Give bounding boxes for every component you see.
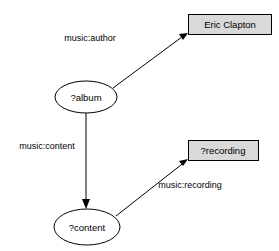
edge-music-content-arrowhead (82, 199, 90, 209)
node-eric-clapton[interactable]: Eric Clapton (189, 15, 272, 35)
edge-music-recording: music:recording (116, 159, 222, 216)
edge-label-music-content: music:content (19, 141, 75, 151)
rdf-graph: music:author music:content music:recordi… (0, 0, 279, 251)
diagram-canvas: music:author music:content music:recordi… (0, 0, 279, 251)
node-album-label: ?album (70, 92, 101, 103)
node-recording[interactable]: ?recording (189, 141, 259, 161)
node-eric-clapton-label: Eric Clapton (204, 19, 256, 30)
edge-label-music-author: music:author (64, 33, 116, 43)
node-content-label: ?content (69, 222, 106, 233)
edge-music-author-arrowhead (179, 33, 188, 40)
node-album[interactable]: ?album (55, 81, 117, 113)
edge-music-author-line (113, 34, 186, 88)
node-content[interactable]: ?content (54, 209, 120, 245)
edge-music-author: music:author (64, 33, 188, 88)
node-recording-label: ?recording (201, 145, 246, 156)
edge-label-music-recording: music:recording (158, 180, 222, 190)
edge-music-content: music:content (19, 113, 90, 209)
